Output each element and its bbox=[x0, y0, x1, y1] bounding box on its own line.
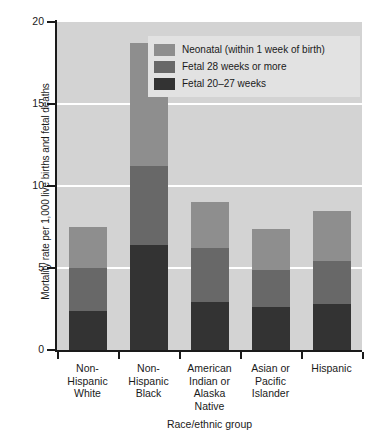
x-axis-label-line: Hispanic bbox=[296, 362, 368, 375]
x-axis-label: Hispanic bbox=[296, 362, 368, 375]
bar-segment[interactable] bbox=[130, 166, 168, 245]
legend-swatch bbox=[154, 61, 175, 73]
stacked-bar-chart: Mortality rate per 1,000 live births and… bbox=[0, 0, 370, 439]
bar-group[interactable] bbox=[69, 227, 107, 350]
y-axis-tick-label: 0 bbox=[4, 344, 44, 354]
legend-item[interactable]: Fetal 20–27 weeks bbox=[154, 75, 353, 92]
gridline bbox=[57, 185, 362, 187]
legend-label: Neonatal (within 1 week of birth) bbox=[182, 44, 325, 55]
bar-group[interactable] bbox=[191, 202, 229, 350]
x-axis-tick bbox=[179, 352, 181, 359]
x-axis-label-line: Native bbox=[174, 400, 246, 413]
bar-segment[interactable] bbox=[313, 211, 351, 262]
x-axis-label-line: Islander bbox=[235, 387, 307, 400]
bar-segment[interactable] bbox=[69, 227, 107, 268]
gridline bbox=[57, 103, 362, 105]
bar-segment[interactable] bbox=[191, 248, 229, 302]
y-axis-tick-label: 10 bbox=[4, 180, 44, 190]
legend-swatch bbox=[154, 44, 175, 56]
bar-segment[interactable] bbox=[191, 202, 229, 248]
y-axis-line bbox=[55, 20, 57, 352]
x-axis-tick bbox=[301, 352, 303, 359]
y-axis-tick bbox=[47, 185, 55, 187]
legend-label: Fetal 20–27 weeks bbox=[182, 78, 266, 89]
bar-segment[interactable] bbox=[313, 261, 351, 304]
legend-label: Fetal 28 weeks or more bbox=[182, 61, 287, 72]
legend-item[interactable]: Neonatal (within 1 week of birth) bbox=[154, 41, 353, 58]
x-axis-tick bbox=[240, 352, 242, 359]
y-axis-tick bbox=[47, 349, 55, 351]
chart-legend: Neonatal (within 1 week of birth)Fetal 2… bbox=[148, 36, 360, 97]
x-axis-line bbox=[55, 350, 362, 352]
x-axis-title: Race/ethnic group bbox=[57, 418, 362, 430]
bar-segment[interactable] bbox=[313, 304, 351, 350]
bar-segment[interactable] bbox=[252, 229, 290, 270]
legend-item[interactable]: Fetal 28 weeks or more bbox=[154, 58, 353, 75]
bar-segment[interactable] bbox=[252, 307, 290, 350]
x-axis-tick bbox=[57, 352, 59, 359]
bar-segment[interactable] bbox=[130, 245, 168, 350]
y-axis-tick-label: 15 bbox=[4, 98, 44, 108]
bar-group[interactable] bbox=[313, 211, 351, 350]
bar-group[interactable] bbox=[252, 229, 290, 350]
legend-swatch bbox=[154, 78, 175, 90]
y-axis-title: Mortality rate per 1,000 live births and… bbox=[40, 42, 51, 342]
bar-segment[interactable] bbox=[69, 268, 107, 311]
y-axis-tick bbox=[47, 267, 55, 269]
y-axis-tick bbox=[47, 21, 55, 23]
y-axis-tick bbox=[47, 103, 55, 105]
x-axis-tick bbox=[362, 352, 364, 359]
y-axis-tick-label: 20 bbox=[4, 16, 44, 26]
bar-segment[interactable] bbox=[191, 302, 229, 350]
bar-segment[interactable] bbox=[252, 270, 290, 308]
bar-segment[interactable] bbox=[69, 311, 107, 350]
x-axis-label-line: Pacific bbox=[235, 375, 307, 388]
y-axis-tick-label: 5 bbox=[4, 262, 44, 272]
x-axis-tick bbox=[118, 352, 120, 359]
